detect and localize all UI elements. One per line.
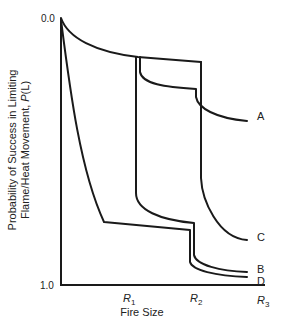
- y-tick-bottom: 1.0: [40, 280, 54, 291]
- series-label-b: B: [257, 263, 264, 275]
- y-tick-top: 0.0: [41, 13, 55, 24]
- series-label-a: A: [257, 110, 265, 122]
- x-axis-title: Fire Size: [120, 306, 163, 318]
- y-axis-title-line2: Flame/Heat Movement, P(L): [19, 81, 31, 219]
- series-label-d: D: [257, 275, 265, 287]
- curve-c: [201, 62, 247, 240]
- series-label-c: C: [257, 231, 265, 243]
- curve-top-envelope: [61, 18, 201, 62]
- x-tick-r1: R1: [123, 292, 136, 307]
- curve-a: [140, 57, 247, 121]
- curves: [61, 18, 247, 277]
- y-axis-title-line1: Probability of Success in Limiting: [6, 70, 18, 231]
- chart: 0.0 1.0 Probability of Success in Limiti…: [0, 0, 291, 335]
- x-tick-r3: R3: [257, 294, 270, 309]
- y-axis-title-line2-text: Flame/Heat Movement,: [19, 102, 31, 219]
- x-tick-r2: R2: [190, 292, 203, 307]
